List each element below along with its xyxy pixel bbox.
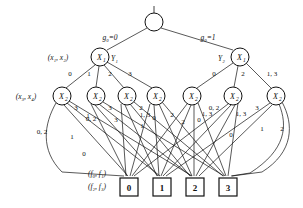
node-x2-4-sub: 2 bbox=[159, 96, 162, 102]
node-x2-3-sub: 2 bbox=[130, 96, 133, 102]
x2-edge-label-21: 0 bbox=[82, 150, 86, 158]
node-x1-right-sub: 1 bbox=[243, 57, 246, 63]
row-label-f0f1: (f₀, f₁) bbox=[88, 169, 107, 178]
x2-edge-label-14: 1, 3 bbox=[236, 110, 247, 118]
x2-edge-label-9: 2 bbox=[170, 111, 174, 119]
node-x2-7-sub: 2 bbox=[279, 96, 282, 102]
root-node[interactable] bbox=[145, 13, 163, 31]
x2-edge-label-4: 3 bbox=[114, 116, 118, 124]
node-x2-1-sub: 2 bbox=[65, 96, 68, 102]
terminal-label-1: 1 bbox=[160, 183, 165, 193]
terminal-label-3: 3 bbox=[226, 183, 231, 193]
edge-label-x1r-0: 0 bbox=[212, 70, 216, 78]
node-x2-5-sub: 2 bbox=[195, 96, 198, 102]
x2-edge-label-20: 1 bbox=[70, 133, 74, 141]
node-x2-2-sub: 2 bbox=[99, 96, 102, 102]
edge-label-x1l-0: 0 bbox=[68, 70, 72, 78]
edge-label-x1r-13: 1, 3 bbox=[267, 70, 278, 78]
x2-edge-label-10: 2 bbox=[181, 118, 185, 126]
x2-node-row: X 2 X 2 X 2 X 2 X 2 X 2 X 2 bbox=[53, 87, 285, 105]
x2-edge-label-19: 0, 2 bbox=[37, 128, 48, 136]
edge-label-x1l-3: 3 bbox=[128, 70, 132, 78]
x2-edge-label-8: 1 bbox=[140, 122, 144, 130]
edge-label-x1l-1: 1 bbox=[87, 70, 91, 78]
row-label-f2f3: (f₂, f₃) bbox=[88, 182, 107, 191]
x2-edge-label-16: 0 bbox=[229, 131, 233, 139]
row-label-x3x4: (x₃, x₄) bbox=[16, 92, 37, 101]
terminal-label-2: 2 bbox=[193, 183, 198, 193]
figure-canvas: g₀=0 g₀=1 X 1 X 1 Y₁ Y₂ (x₁, x₂) (x₃, x₄… bbox=[0, 0, 303, 208]
terminal-row: 0 1 2 3 bbox=[120, 178, 237, 196]
edge-x1r-2 bbox=[234, 66, 238, 87]
terminal-edge-web bbox=[46, 101, 289, 176]
x2-edge-labels: 3 1 3 0, 2 3 2 1, 3 0 1 2 2 0 1, 3 0, 2 … bbox=[37, 104, 285, 158]
x2-edge-label-11: 0 bbox=[197, 116, 201, 124]
x2-edge-label-0: 3 bbox=[74, 104, 78, 112]
edge-x1l-2 bbox=[104, 65, 124, 88]
decision-diagram: g₀=0 g₀=1 X 1 X 1 Y₁ Y₂ (x₁, x₂) (x₃, x₄… bbox=[0, 0, 303, 208]
x2-edge-label-7: 0 bbox=[152, 114, 156, 122]
root-edge-label-1: g₀=1 bbox=[200, 33, 215, 42]
node-x1-left-sub: 1 bbox=[103, 57, 106, 63]
node-x2-6-sub: 2 bbox=[236, 96, 239, 102]
edge-label-x1r-2: 2 bbox=[241, 70, 245, 78]
edge-label-x1l-2: 2 bbox=[108, 70, 112, 78]
root-edge-label-0: g₀=0 bbox=[102, 33, 117, 42]
x2-edge-label-3: 0, 2 bbox=[86, 115, 97, 123]
label-y1: Y₁ bbox=[111, 54, 118, 63]
x2-edge-label-13: 0, 2 bbox=[209, 104, 220, 112]
x2-edge-label-17: 1 bbox=[260, 125, 264, 133]
edge-x1l-1 bbox=[96, 66, 99, 87]
x2-edge-label-18: 2 bbox=[280, 125, 284, 133]
x2-edge-label-6: 1, 3 bbox=[140, 111, 151, 119]
x2-edge-label-2: 3 bbox=[108, 104, 112, 112]
terminal-label-0: 0 bbox=[127, 183, 132, 193]
edge-root-to-x1-right bbox=[161, 28, 233, 50]
x2-edge-label-15: 3 bbox=[255, 104, 259, 112]
row-label-x1x2: (x₁, x₂) bbox=[48, 53, 69, 62]
label-y2: Y₂ bbox=[218, 54, 225, 63]
